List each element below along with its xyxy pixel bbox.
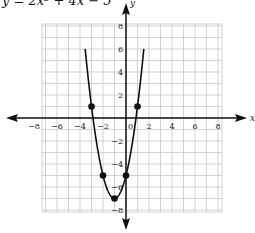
data-point [111, 195, 118, 202]
y-tick-label: 6 [118, 45, 123, 54]
x-tick-label: 2 [146, 122, 151, 131]
x-tick-label: −8 [28, 122, 40, 131]
data-point [100, 172, 107, 179]
y-axis-label: y [129, 0, 136, 8]
x-tick-label: −2 [97, 122, 109, 131]
y-tick-label: −8 [111, 206, 123, 215]
y-tick-label: 4 [118, 68, 123, 77]
data-point [123, 172, 130, 179]
x-tick-label: 6 [192, 122, 197, 131]
x-tick-label: −4 [74, 122, 86, 131]
y-tick-label: −2 [111, 137, 123, 146]
x-tick-label: 0 [128, 122, 133, 131]
x-axis-label: x [250, 113, 255, 123]
y-tick-label: 8 [118, 22, 123, 31]
coordinate-plane: xy −8−6−4−202468−8−6−4−22468 [0, 0, 255, 233]
data-point [134, 103, 141, 110]
y-tick-label: −4 [111, 160, 123, 169]
y-tick-label: 2 [118, 91, 123, 100]
data-point [88, 103, 95, 110]
x-tick-label: 8 [215, 122, 220, 131]
x-tick-label: −6 [51, 122, 63, 131]
x-tick-label: 4 [169, 122, 174, 131]
